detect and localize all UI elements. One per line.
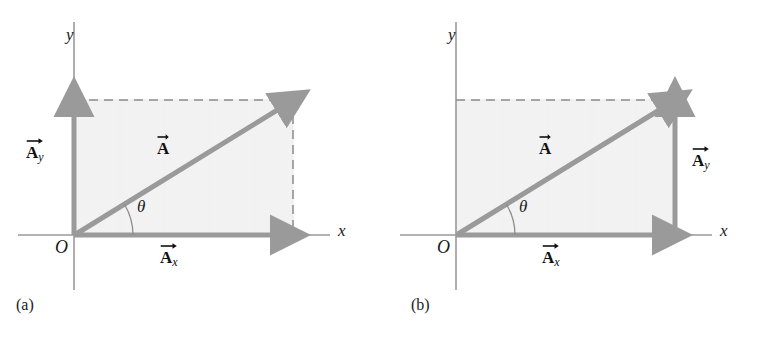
panel-a-label-Ay-subscript: y (38, 150, 43, 164)
panel-a-y-axis-label: y (66, 26, 74, 43)
panel-b-label-A-base: A (539, 139, 551, 158)
panel-b-y-axis-label: y (448, 26, 456, 43)
panel-a-label-A: A (157, 140, 169, 157)
panel-a-origin-label: O (55, 238, 68, 256)
panel-b-label-Ax-base: A (542, 248, 554, 267)
panel-a-label-Ay: Ay (26, 144, 44, 163)
panel-b-label-Ax: Ax (542, 249, 560, 268)
panel-b-label-Ay: Ay (692, 152, 710, 171)
panel-a-label-A-base: A (157, 139, 169, 158)
panel-b-angle-label: θ (519, 198, 527, 215)
panel-b-label-Ay-subscript: y (704, 158, 709, 172)
panel-a-x-axis-label: x (338, 222, 346, 239)
figure-canvas (0, 0, 757, 340)
panel-a-caption: (a) (16, 297, 34, 313)
panel-b-label-Ay-base: A (692, 151, 704, 170)
panel-a-label-Ax: Ax (160, 249, 178, 268)
panel-a-label-Ay-base: A (26, 143, 38, 162)
panel-b-origin-label: O (437, 238, 450, 256)
panel-a-label-Ax-base: A (160, 248, 172, 267)
panel-b-label-Ax-subscript: x (554, 255, 559, 269)
vector-components-figure: y x O θ Ay Ax A (0, 0, 757, 340)
panel-b-label-A: A (539, 140, 551, 157)
panel-a-label-Ax-subscript: x (172, 255, 177, 269)
panel-b-caption: (b) (411, 297, 430, 313)
panel-b-x-axis-label: x (720, 222, 728, 239)
panel-a-angle-label: θ (137, 198, 145, 215)
